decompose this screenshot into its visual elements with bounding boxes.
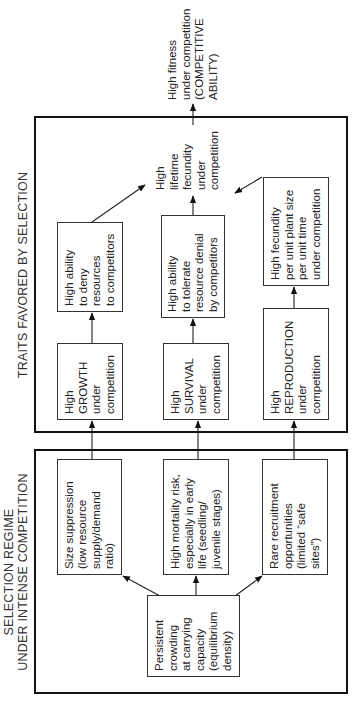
- mortality-risk-text: High mortality risk, especially in early…: [169, 474, 223, 569]
- deny-resources-box: High ability to deny resources to compet…: [57, 222, 123, 312]
- fecundity-per-unit-text: High fecundity per unit plant size per u…: [269, 189, 323, 280]
- fecundity-per-unit-box: High fecundity per unit plant size per u…: [263, 177, 329, 286]
- rare-recruitment-text: Rare recruitment opportunities (limited …: [268, 483, 322, 569]
- survival-box: High SURVIVAL under competition: [163, 343, 229, 420]
- growth-text: High GROWTH under competition: [63, 355, 117, 414]
- rare-recruitment-box: Rare recruitment opportunities (limited …: [262, 459, 328, 575]
- diagram-canvas: SELECTION REGIME UNDER INTENSE COMPETITI…: [0, 0, 355, 708]
- arrow-deny-lifetime: [92, 185, 145, 222]
- size-suppression-box: Size suppression (low resource supply/de…: [57, 459, 122, 575]
- size-suppression-text: Size suppression (low resource supply/de…: [63, 481, 117, 569]
- survival-text: High SURVIVAL under competition: [169, 355, 223, 414]
- persistent-crowding-text: Persistent crowding at carrying capacity…: [153, 612, 234, 671]
- reproduction-text: High REPRODUCTION under competition: [269, 321, 323, 414]
- tolerate-denial-box: High ability to tolerate resource denial…: [161, 215, 225, 318]
- arrow-persistent-size: [123, 576, 160, 596]
- growth-box: High GROWTH under competition: [57, 343, 123, 420]
- mortality-risk-box: High mortality risk, especially in early…: [163, 459, 229, 575]
- persistent-crowding-box: Persistent crowding at carrying capacity…: [147, 595, 240, 677]
- arrow-persistent-rare: [235, 576, 262, 596]
- tolerate-denial-text: High ability to tolerate resource denial…: [166, 233, 220, 312]
- lifetime-fecundity-text: High lifetime fecundity under competitio…: [154, 131, 222, 190]
- competitive-ability-text: High fitness under competition (COMPETIT…: [166, 9, 220, 100]
- arrow-fecundity-lifetime: [235, 177, 262, 193]
- reproduction-box: High REPRODUCTION under competition: [263, 308, 329, 420]
- deny-resources-text: High ability to deny resources to compet…: [63, 234, 117, 306]
